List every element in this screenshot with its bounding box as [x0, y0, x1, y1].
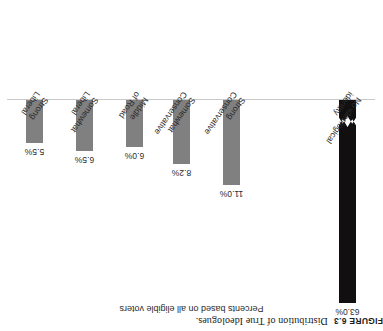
bar-value-somewhat-conservative: 8.2%	[172, 168, 191, 178]
scanned-page: FIGURE 6.3Distribution of True Ideologue…	[0, 0, 383, 331]
bar-value-middle-of-road: 6.0%	[125, 151, 144, 161]
bar-value-strong-liberal: 5.5%	[25, 147, 44, 157]
bar-value-somewhat-liberal: 6.5%	[75, 155, 94, 165]
bar-value-strong-conservative: 11.0%	[220, 189, 243, 199]
bar-series: 63.0% 11.0% 8.2% 6.0% 6.5%	[0, 0, 383, 331]
bar-chart: 63.0% 11.0% 8.2% 6.0% 6.5%	[0, 0, 383, 331]
chart-footnote: Percents based on all eligible voters	[0, 304, 383, 314]
